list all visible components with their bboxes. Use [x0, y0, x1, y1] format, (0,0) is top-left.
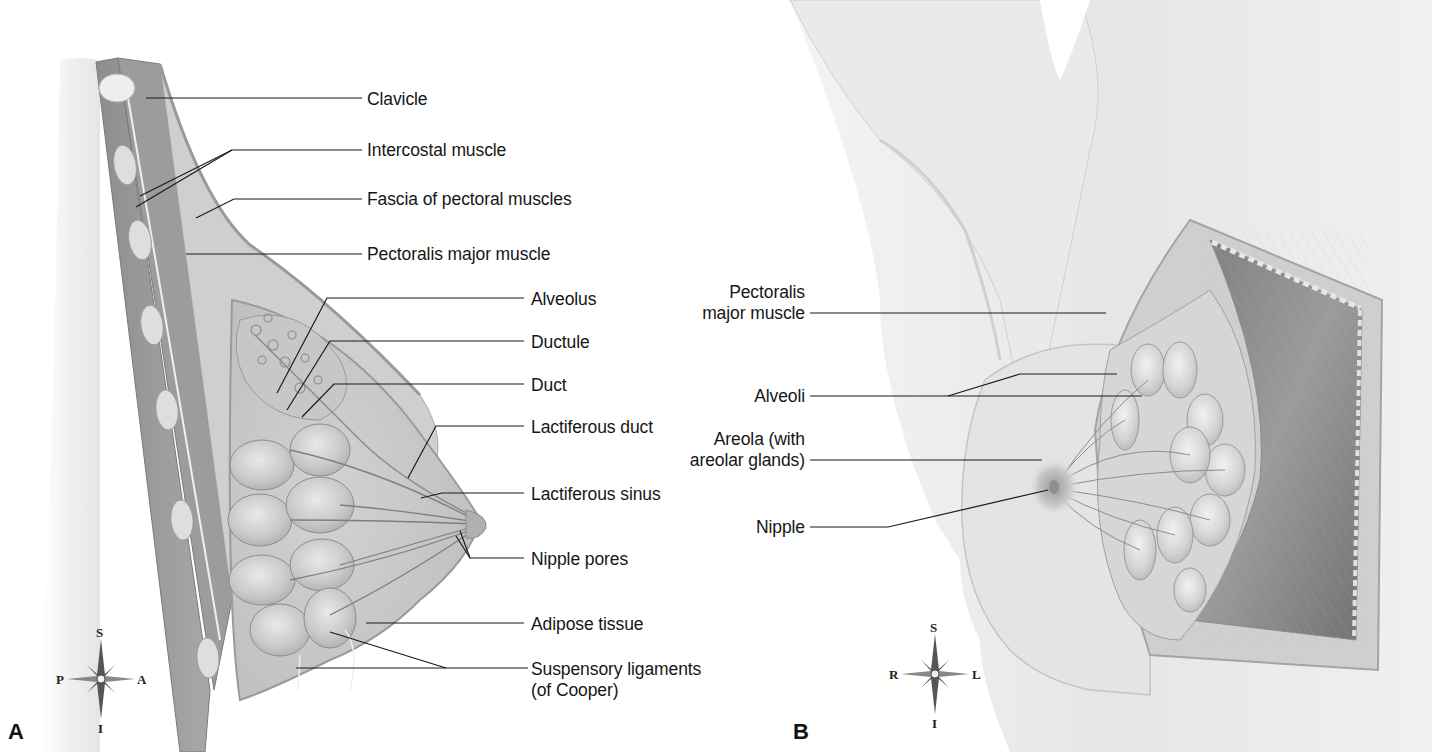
compass-a-inferior: I [98, 721, 103, 737]
label-nipple: Nipple [756, 517, 805, 538]
compass-b-superior: S [930, 620, 937, 636]
label-intercostal-muscle: Intercostal muscle [367, 140, 506, 161]
label-nipple-pores: Nipple pores [531, 549, 628, 570]
label-duct: Duct [531, 375, 567, 396]
compass-a-anterior: A [137, 672, 146, 688]
label-pectoralis-b-line2: major muscle [702, 303, 805, 324]
label-pectoralis-major-a: Pectoralis major muscle [367, 244, 550, 265]
label-areola-line2: areolar glands) [690, 450, 805, 471]
compass-a-superior: S [96, 625, 103, 641]
compass-b-right: R [889, 667, 898, 683]
label-areola-line1: Areola (with [714, 429, 805, 450]
label-suspensory-ligaments: Suspensory ligaments [531, 659, 701, 680]
label-alveoli: Alveoli [754, 386, 805, 407]
compass-a-posterior: P [56, 672, 64, 688]
compass-b-inferior: I [932, 716, 937, 732]
label-pectoralis-b-line1: Pectoralis [729, 282, 805, 303]
anatomy-figure: Clavicle Intercostal muscle Fascia of pe… [0, 0, 1432, 752]
label-fascia-pectoral: Fascia of pectoral muscles [367, 189, 572, 210]
label-adipose-tissue: Adipose tissue [531, 614, 643, 635]
compass-b-left: L [972, 667, 981, 683]
panel-letter-b: B [793, 719, 809, 745]
figure-artwork [0, 0, 1432, 752]
label-clavicle: Clavicle [367, 89, 427, 110]
label-lactiferous-sinus: Lactiferous sinus [531, 484, 661, 505]
compass-rose-b [901, 634, 969, 714]
label-ductule: Ductule [531, 332, 590, 353]
label-lactiferous-duct: Lactiferous duct [531, 417, 653, 438]
panel-letter-a: A [8, 719, 24, 745]
panel-b-artwork [790, 0, 1432, 752]
label-of-cooper: (of Cooper) [531, 680, 618, 701]
label-alveolus: Alveolus [531, 289, 596, 310]
